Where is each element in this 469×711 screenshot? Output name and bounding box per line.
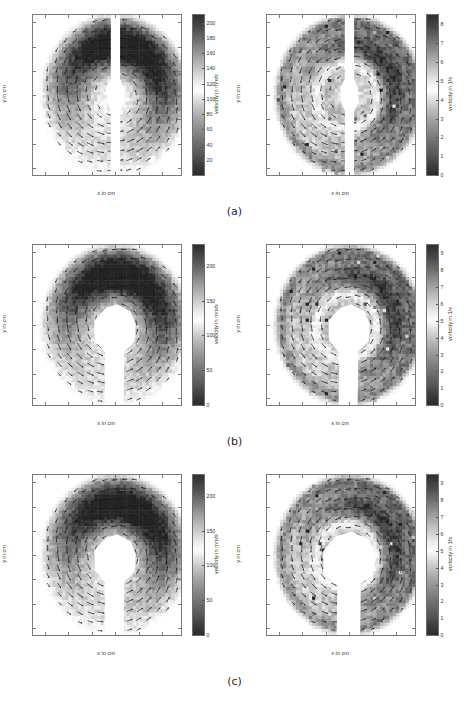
y-axis-label: y in cm	[1, 85, 7, 103]
panel-caption-b: (b)	[0, 435, 469, 448]
panel-caption-c: (c)	[0, 675, 469, 688]
colorbar-a-velocity: 20018016014012010080604020	[192, 14, 205, 176]
plot-area-a-velocity: 6420-2-4-6-6-4-2024	[32, 14, 182, 176]
colorbar-gradient	[193, 245, 204, 405]
colorbar-tick-label: 150	[207, 298, 216, 304]
y-axis-label: y in cm	[1, 315, 7, 333]
colorbar-label: velocity in mm/s	[213, 74, 219, 114]
colorbar-a-vorticity: 876543210	[426, 14, 439, 176]
field-render	[267, 245, 415, 405]
colorbar-tick-label: 80	[207, 111, 213, 117]
panel-a-velocity: 6420-2-4-6-6-4-2024 x in cm y in cm 2001…	[2, 8, 230, 204]
colorbar-b-velocity: 200150100500	[192, 244, 205, 406]
colorbar-tick-label: 8	[441, 21, 444, 27]
colorbar-tick-label: 8	[441, 497, 444, 503]
colorbar-label: velocity in mm/s	[213, 534, 219, 574]
colorbar-label: vorticity in 1/s	[447, 77, 453, 111]
panel-b-velocity: 6420-2-4-6-6-4-2024 x in cm y in cm 2001…	[2, 238, 230, 434]
colorbar-tick-label: 0	[441, 632, 444, 638]
colorbar-tick-label: 0	[207, 632, 210, 638]
y-axis-label: y in cm	[235, 545, 241, 563]
colorbar-tick-label: 200	[207, 493, 216, 499]
colorbar-tick-label: 0	[441, 402, 444, 408]
colorbar-gradient	[427, 245, 438, 405]
field-render	[267, 15, 415, 175]
panel-caption-a: (a)	[0, 205, 469, 218]
x-axis-label: x in cm	[32, 650, 180, 656]
panel-row-c: 6420-2-4-6-6-4-2024 x in cm y in cm 2001…	[0, 460, 469, 711]
colorbar-label: vorticity in 1/s	[447, 307, 453, 341]
colorbar-tick-label: 1	[441, 615, 444, 621]
plot-area-b-vorticity: 6420-2-4-6-6-4-2024	[266, 244, 416, 406]
colorbar-tick-label: 6	[441, 301, 444, 307]
colorbar-tick-label: 6	[441, 531, 444, 537]
y-axis-label: y in cm	[235, 85, 241, 103]
x-axis-label: x in cm	[266, 650, 414, 656]
colorbar-c-vorticity: 9876543210	[426, 474, 439, 636]
figure-root: 6420-2-4-6-6-4-2024 x in cm y in cm 2001…	[0, 0, 469, 711]
colorbar-tick-label: 7	[441, 40, 444, 46]
plot-area-b-velocity: 6420-2-4-6-6-4-2024	[32, 244, 182, 406]
colorbar-tick-label: 60	[207, 126, 213, 132]
panel-row-b: 6420-2-4-6-6-4-2024 x in cm y in cm 2001…	[0, 230, 469, 460]
x-axis-label: x in cm	[266, 420, 414, 426]
plot-area-c-velocity: 6420-2-4-6-6-4-2024	[32, 474, 182, 636]
colorbar-gradient	[427, 15, 438, 175]
x-axis-label: x in cm	[32, 190, 180, 196]
panel-b-vorticity: 6420-2-4-6-6-4-2024 x in cm y in cm 9876…	[236, 238, 464, 434]
y-axis-label: y in cm	[235, 315, 241, 333]
colorbar-tick-label: 200	[207, 20, 216, 26]
colorbar-tick-label: 7	[441, 284, 444, 290]
colorbar-gradient	[193, 475, 204, 635]
field-render	[33, 15, 181, 175]
colorbar-tick-label: 40	[207, 142, 213, 148]
colorbar-tick-label: 1	[441, 385, 444, 391]
colorbar-tick-label: 4	[441, 335, 444, 341]
colorbar-tick-label: 160	[207, 50, 216, 56]
colorbar-b-vorticity: 9876543210	[426, 244, 439, 406]
colorbar-tick-label: 200	[207, 263, 216, 269]
x-axis-label: x in cm	[266, 190, 414, 196]
field-render	[33, 475, 181, 635]
colorbar-gradient	[193, 15, 204, 175]
colorbar-label: vorticity in 1/s	[447, 537, 453, 571]
colorbar-tick-label: 6	[441, 59, 444, 65]
colorbar-tick-label: 4	[441, 97, 444, 103]
colorbar-tick-label: 8	[441, 267, 444, 273]
colorbar-tick-label: 140	[207, 65, 216, 71]
colorbar-tick-label: 4	[441, 565, 444, 571]
plot-area-c-vorticity: 6420-2-4-6-6-4-2024	[266, 474, 416, 636]
colorbar-tick-label: 5	[441, 548, 444, 554]
colorbar-label: velocity in mm/s	[213, 304, 219, 344]
field-render	[267, 475, 415, 635]
colorbar-tick-label: 5	[441, 78, 444, 84]
colorbar-tick-label: 180	[207, 35, 216, 41]
colorbar-tick-label: 0	[441, 172, 444, 178]
colorbar-tick-label: 1	[441, 153, 444, 159]
colorbar-tick-label: 7	[441, 514, 444, 520]
colorbar-tick-label: 0	[207, 402, 210, 408]
y-axis-label: y in cm	[1, 545, 7, 563]
panel-c-vorticity: 6420-2-4-6-6-4-2024 x in cm y in cm 9876…	[236, 468, 464, 664]
panel-a-vorticity: 6420-2-4-6-6-4-2024 x in cm y in cm 8765…	[236, 8, 464, 204]
panel-rows: 6420-2-4-6-6-4-2024 x in cm y in cm 2001…	[0, 0, 469, 711]
colorbar-tick-label: 2	[441, 134, 444, 140]
x-axis-label: x in cm	[32, 420, 180, 426]
colorbar-tick-label: 2	[441, 368, 444, 374]
colorbar-tick-label: 9	[441, 480, 444, 486]
colorbar-tick-label: 5	[441, 318, 444, 324]
colorbar-tick-label: 3	[441, 582, 444, 588]
panel-row-a: 6420-2-4-6-6-4-2024 x in cm y in cm 2001…	[0, 0, 469, 230]
colorbar-tick-label: 150	[207, 528, 216, 534]
colorbar-tick-label: 3	[441, 352, 444, 358]
colorbar-tick-label: 9	[441, 250, 444, 256]
colorbar-gradient	[427, 475, 438, 635]
colorbar-tick-label: 50	[207, 597, 213, 603]
plot-area-a-vorticity: 6420-2-4-6-6-4-2024	[266, 14, 416, 176]
colorbar-tick-label: 2	[441, 598, 444, 604]
colorbar-tick-label: 3	[441, 116, 444, 122]
panel-c-velocity: 6420-2-4-6-6-4-2024 x in cm y in cm 2001…	[2, 468, 230, 664]
colorbar-c-velocity: 200150100500	[192, 474, 205, 636]
field-render	[33, 245, 181, 405]
colorbar-tick-label: 50	[207, 367, 213, 373]
